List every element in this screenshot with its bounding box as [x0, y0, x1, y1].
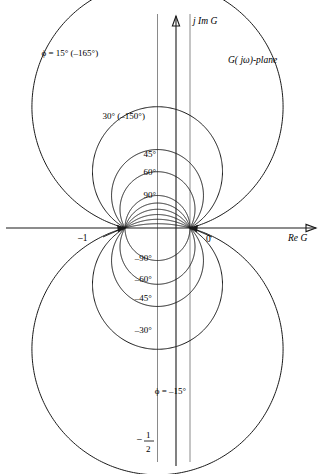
tick-label-minus-one: –1	[77, 233, 88, 243]
curve-label--30deg: –30°	[134, 325, 153, 335]
curve-label-90deg: 90°	[143, 190, 156, 200]
real-axis-label: Re G	[287, 233, 307, 243]
curve-label--90deg: –90°	[134, 253, 153, 263]
minus-half-sign: –	[136, 434, 142, 444]
tick-label-zero: 0	[206, 234, 211, 244]
imag-axis-label: j Im G	[191, 16, 217, 26]
constant-phase-loci-figure: j Im G Re G G( jω)-plane –1 0 – 1 2 ϕ = …	[0, 0, 330, 474]
minus-half-numerator: 1	[146, 430, 151, 440]
axes-group	[6, 16, 316, 466]
curve-label--45deg: –45°	[134, 293, 153, 303]
curve-labels-group: ϕ = 15° (–165°)30° (–150°)45°60°90°ϕ = –…	[41, 48, 186, 396]
curve-label--15deg: ϕ = –15°	[155, 386, 187, 396]
curve-label-60deg: 60°	[143, 167, 156, 177]
curve-label--60deg: –60°	[134, 274, 153, 284]
curve-label-15deg: ϕ = 15° (–165°)	[41, 48, 98, 58]
plot-canvas: j Im G Re G G( jω)-plane –1 0 – 1 2 ϕ = …	[0, 0, 330, 474]
minus-half-denominator: 2	[146, 444, 151, 454]
tick-label-minus-half: – 1 2	[136, 430, 154, 454]
curve-label-30deg: 30° (–150°)	[102, 111, 144, 121]
plane-label: G( jω)-plane	[228, 55, 277, 66]
curve-label-45deg: 45°	[143, 149, 156, 159]
